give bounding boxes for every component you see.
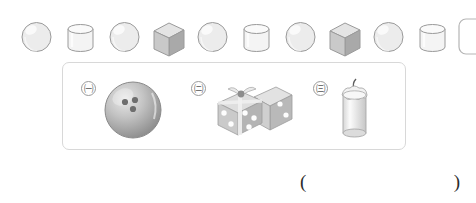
pattern-shape-sphere — [192, 11, 233, 57]
option-c[interactable]: ㈢ — [313, 63, 413, 151]
pattern-shape-sphere — [104, 11, 145, 57]
option-b[interactable]: ㈡ — [191, 63, 321, 151]
shape-pattern-sequence — [0, 8, 476, 60]
close-paren: ) — [454, 172, 460, 191]
pattern-shape-sphere — [368, 11, 409, 57]
pattern-shape-sphere — [280, 11, 321, 57]
option-b-label: ㈡ — [191, 81, 206, 96]
dice-pair-icon — [210, 75, 296, 141]
option-a[interactable]: ㈠ — [81, 63, 201, 151]
pattern-shape-cylinder — [412, 11, 453, 57]
answer-blank[interactable]: ( ) — [300, 168, 460, 194]
open-paren: ( — [300, 172, 306, 191]
bowling-ball-icon — [100, 75, 170, 141]
answer-options-panel: ㈠ — [62, 62, 406, 150]
candle-icon — [332, 75, 378, 141]
pattern-shape-cube — [148, 11, 189, 57]
option-a-label: ㈠ — [81, 81, 96, 96]
option-c-label: ㈢ — [313, 81, 328, 96]
pattern-shape-cylinder — [60, 11, 101, 57]
pattern-shape-sphere — [16, 11, 57, 57]
pattern-blank-box[interactable] — [456, 11, 476, 57]
worksheet-page: ㈠ — [0, 0, 476, 203]
pattern-shape-cube — [324, 11, 365, 57]
pattern-shape-cylinder — [236, 11, 277, 57]
